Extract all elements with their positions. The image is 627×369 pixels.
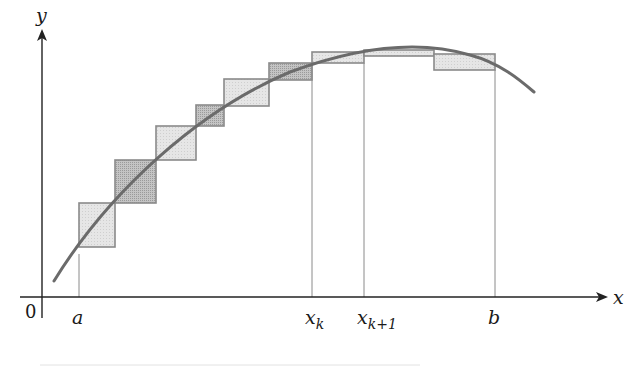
tick-label-b: b: [488, 306, 500, 328]
x-axis-label: x: [613, 286, 624, 308]
rectangle-light: [434, 54, 495, 70]
approximating-rectangles: [79, 50, 495, 247]
origin-label: 0: [25, 301, 36, 322]
tick-labels: axkxk+1b: [72, 306, 500, 332]
riemann-sum-diagram: y x 0 axkxk+1b: [0, 0, 627, 369]
rectangle-light: [79, 203, 115, 247]
tick-label-xk1: xk+1: [357, 306, 397, 332]
tick-label-xk: xk: [305, 306, 324, 332]
tick-label-a: a: [72, 306, 83, 328]
y-axis-label: y: [35, 4, 47, 26]
